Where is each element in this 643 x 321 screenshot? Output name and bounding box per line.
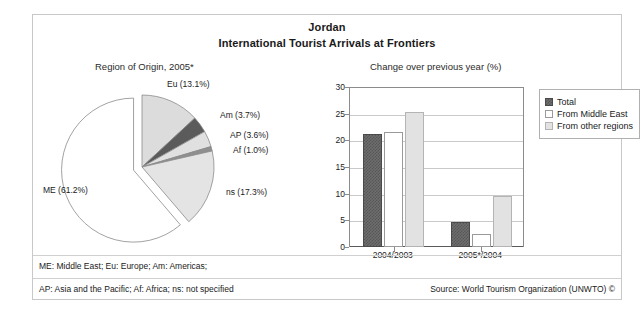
footer-abbrev-line-1: ME: Middle East; Eu: Europe; Am: America… [39,261,207,271]
pie-chart: Eu (13.1%) Am (3.7%) AP (3.6%) Af (1.0%)… [37,77,317,257]
bar-me-0 [384,132,403,247]
y-tick-label-0: 0 [321,242,345,252]
footer-divider-top [33,255,621,256]
legend-swatch-middle-east [545,110,553,118]
y-tick-label-15: 15 [321,162,345,172]
pie-label-eu: Eu (13.1%) [167,79,210,89]
figure-title: Jordan [33,21,621,33]
bar-other-1 [493,196,512,247]
legend-label-middle-east: From Middle East [557,109,628,119]
bar-total-0 [363,134,382,247]
pie-chart-caption: Region of Origin, 2005* [95,61,194,72]
bar-other-0 [405,112,424,247]
pie-label-af: Af (1.0%) [233,145,268,155]
legend-swatch-total [545,98,553,106]
footer-source: Source: World Tourism Organization (UNWT… [430,284,615,294]
y-tick-label-5: 5 [321,215,345,225]
y-tick-mark-30 [345,87,349,88]
y-tick-mark-10 [345,194,349,195]
pie-label-am: Am (3.7%) [220,110,260,120]
legend-item-total: Total [545,97,633,107]
y-tick-mark-20 [345,140,349,141]
figure-subtitle: International Tourist Arrivals at Fronti… [33,37,621,49]
footer-divider-middle [33,278,621,279]
bar-chart-plot-area [349,87,524,247]
legend-label-total: Total [557,97,576,107]
bar-total-1 [451,222,470,247]
y-tick-label-30: 30 [321,82,345,92]
gridline-25 [350,115,523,116]
bar-chart-legend: Total From Middle East From other region… [539,89,640,139]
y-tick-mark-25 [345,114,349,115]
pie-label-me: ME (61.2%) [43,185,88,195]
y-tick-label-20: 20 [321,135,345,145]
bar-chart: 051015202530 2004/20032005*/2004 Total F… [321,77,621,277]
y-tick-mark-0 [345,247,349,248]
legend-swatch-other-regions [545,122,553,130]
legend-label-other-regions: From other regions [557,121,633,131]
y-tick-label-10: 10 [321,189,345,199]
pie-label-ns: ns (17.3%) [226,187,267,197]
y-tick-mark-15 [345,167,349,168]
y-tick-label-25: 25 [321,109,345,119]
footer-abbrev-line-2: AP: Asia and the Pacific; Af: Africa; ns… [39,284,234,294]
pie-label-ap: AP (3.6%) [230,130,269,140]
figure-panel: Jordan International Tourist Arrivals at… [32,14,622,300]
bar-chart-caption: Change over previous year (%) [370,61,501,72]
legend-item-other-regions: From other regions [545,121,633,131]
legend-item-middle-east: From Middle East [545,109,633,119]
pie-chart-svg [37,77,317,257]
y-tick-mark-5 [345,220,349,221]
bar-me-1 [472,234,491,247]
